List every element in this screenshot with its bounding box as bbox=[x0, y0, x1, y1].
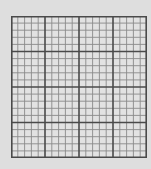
graph-paper-grid bbox=[11, 16, 147, 158]
paper-background bbox=[0, 0, 151, 169]
grid-lines bbox=[11, 16, 147, 158]
